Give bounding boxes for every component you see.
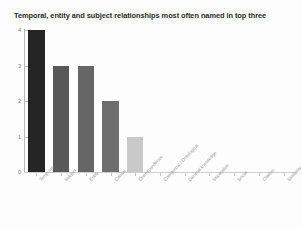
x-tick-mark [209, 173, 210, 176]
x-tick-label-wrap: Temporal [38, 178, 39, 179]
x-tick-mark [61, 173, 62, 176]
x-tick-mark [111, 173, 112, 176]
x-tick-mark [259, 173, 260, 176]
x-tick-label: Separation [212, 178, 216, 182]
x-tick-label-wrap: Entity [88, 178, 89, 179]
x-tick-label-wrap: Separation [211, 178, 212, 179]
x-tick-label: Categorical / Ontological [162, 178, 166, 182]
x-tick-mark [234, 173, 235, 176]
x-tick-label-wrap: Categorical / Ontological [162, 178, 163, 179]
x-tick-label: Causal [113, 178, 117, 182]
x-tick-mark [185, 173, 186, 176]
x-tick-label: Citation [261, 178, 265, 182]
x-tick-label: Subject [63, 178, 67, 182]
x-tick-mark [284, 173, 285, 176]
x-tick-label: Temporal [39, 178, 43, 182]
bar-chart-figure: Temporal, entity and subject relationshi… [0, 0, 302, 229]
x-tick-label-wrap: General knowledge [187, 178, 188, 179]
x-tick-label-wrap: Similarity [286, 178, 287, 179]
x-tick-label-wrap: Causal [113, 178, 114, 179]
x-tick-label: General knowledge [187, 178, 191, 182]
x-tick-label: Social [236, 178, 240, 182]
x-axis-tick-labels: TemporalSubjectEntityCausalCorrespondenc… [0, 0, 302, 229]
x-tick-label-wrap: Subject [63, 178, 64, 179]
x-tick-label-wrap: Social [236, 178, 237, 179]
x-tick-mark [86, 173, 87, 176]
x-tick-mark [160, 173, 161, 176]
x-tick-label: Similarity [286, 178, 290, 182]
x-tick-label: Correspondence [138, 178, 142, 182]
x-tick-label: Entity [88, 178, 92, 182]
x-tick-mark [135, 173, 136, 176]
x-tick-mark [36, 173, 37, 176]
x-tick-label-wrap: Citation [261, 178, 262, 179]
x-tick-label-wrap: Correspondence [137, 178, 138, 179]
